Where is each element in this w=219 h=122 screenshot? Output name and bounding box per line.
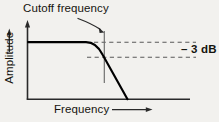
frequency-arrow xyxy=(112,107,153,112)
filter-response-curve xyxy=(28,42,128,99)
y-axis-label: Amplitude xyxy=(4,30,16,86)
cutoff-frequency-label: Cutoff frequency xyxy=(23,3,109,15)
y-axis xyxy=(25,20,30,100)
cutoff-callout-arrow xyxy=(78,19,104,33)
minus-3-db-label: – 3 dB xyxy=(181,44,217,56)
x-axis-label: Frequency xyxy=(54,104,109,116)
figure-artwork xyxy=(0,0,219,122)
filter-response-figure: Cutoff frequency – 3 dB Frequency Amplit… xyxy=(0,0,219,122)
